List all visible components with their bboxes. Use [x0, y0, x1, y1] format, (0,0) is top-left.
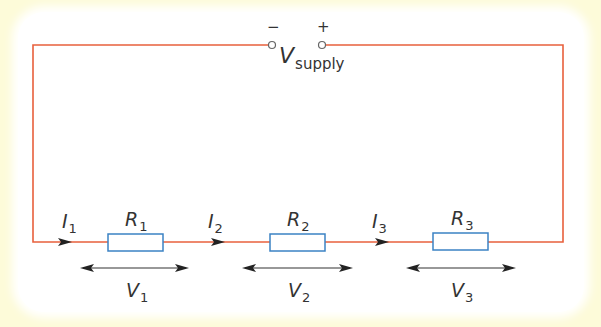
current-symbol: I [372, 210, 378, 232]
voltage-subscript: 1 [140, 290, 148, 305]
current-label-i1: I1 [62, 212, 77, 231]
current-subscript: 2 [215, 221, 223, 236]
current-subscript: 3 [379, 221, 387, 236]
resistor-label-r3: R3 [451, 209, 473, 228]
current-symbol: I [208, 210, 214, 232]
resistor-subscript: 2 [301, 219, 309, 234]
voltage-subscript: 3 [465, 290, 473, 305]
supply-positive-sign: + [317, 20, 330, 35]
resistor-r3 [433, 233, 488, 250]
resistor-label-r1: R1 [125, 210, 147, 229]
supply-voltage-subscript: supply [295, 55, 344, 73]
current-symbol: I [62, 210, 68, 232]
resistor-symbol: R [451, 207, 464, 229]
current-label-i2: I2 [208, 212, 223, 231]
supply-negative-terminal [269, 42, 276, 49]
supply-voltage-label: Vsupply [279, 45, 344, 67]
voltage-subscript: 2 [302, 290, 310, 305]
current-label-i3: I3 [372, 212, 387, 231]
resistor-symbol: R [125, 208, 138, 230]
resistor-subscript: 1 [139, 219, 147, 234]
resistor-r2 [270, 234, 325, 251]
voltage-symbol: V [288, 279, 301, 301]
wire-right-loop [326, 45, 563, 242]
voltage-arrow-v2 [242, 264, 353, 272]
voltage-label-v2: V2 [288, 281, 310, 300]
voltage-arrow-v1 [80, 264, 189, 272]
supply-negative-sign: − [267, 20, 280, 35]
resistor-subscript: 3 [465, 218, 473, 233]
resistor-symbol: R [287, 208, 300, 230]
voltage-symbol: V [451, 279, 464, 301]
voltage-label-v1: V1 [126, 281, 148, 300]
voltage-symbol: V [126, 279, 139, 301]
voltage-arrow-v3 [406, 264, 516, 272]
resistor-label-r2: R2 [287, 210, 309, 229]
resistor-r1 [108, 234, 163, 251]
current-subscript: 1 [69, 221, 77, 236]
supply-voltage-symbol: V [279, 43, 294, 68]
voltage-label-v3: V3 [451, 281, 473, 300]
